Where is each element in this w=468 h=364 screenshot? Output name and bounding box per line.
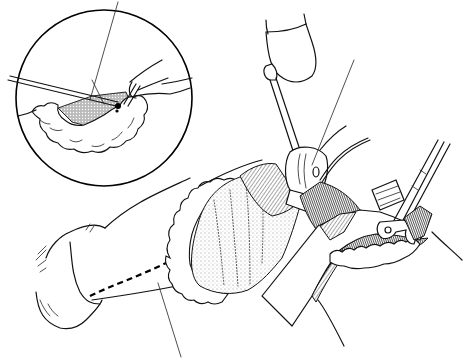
- inset-magnified-view: [8, 10, 192, 186]
- inset-ligature-knot-small: [115, 109, 118, 112]
- right-tissue-line: [432, 232, 462, 260]
- bottom-leader: [158, 283, 181, 357]
- surgical-illustration: [0, 0, 468, 364]
- hand-contour: [70, 242, 100, 304]
- thumb-knuckle: [46, 225, 105, 258]
- knuckle-wrinkles: [36, 246, 46, 272]
- fingers-contour: [36, 292, 102, 329]
- inset-fingers: [130, 60, 190, 96]
- forked-retractor-eye: [385, 227, 391, 233]
- dashed-incision-line: [90, 262, 168, 296]
- bowel-segment: [372, 180, 404, 210]
- retractor-head-hole: [313, 167, 319, 177]
- illustration-canvas: [0, 0, 468, 364]
- inset-top-leader: [90, 2, 118, 100]
- finger-creases: [40, 300, 58, 316]
- blade-lower-edge: [318, 300, 344, 346]
- wound-edge-curve-1: [320, 126, 346, 150]
